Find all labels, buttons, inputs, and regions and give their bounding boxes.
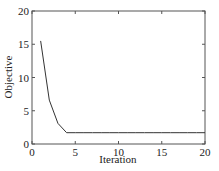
y-tick-label: 10 (18, 72, 30, 84)
y-tick-label: 5 (24, 105, 30, 117)
y-tick-label: 0 (24, 138, 30, 150)
x-axis-label: Iteration (99, 153, 137, 165)
y-tick-label: 15 (18, 38, 30, 50)
objective-line (41, 41, 205, 133)
y-axis-label: Objective (2, 56, 14, 99)
line-chart: 0510152005101520 Iteration Objective (0, 0, 219, 171)
x-tick-label: 15 (156, 146, 168, 158)
x-tick-label: 5 (73, 146, 79, 158)
x-tick-label: 20 (200, 146, 212, 158)
x-tick-label: 0 (29, 146, 35, 158)
y-tick-label: 20 (18, 5, 30, 17)
